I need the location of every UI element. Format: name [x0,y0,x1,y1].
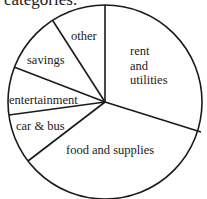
wedge-label-other: other [71,29,98,43]
wedge-label-rent-2: and [130,59,149,73]
wedge-label-rent-3: utilities [130,73,168,87]
wedge-label-entertainment: entertainment [9,93,78,107]
wedge-label-food: food and supplies [66,143,154,157]
wedge-label-rent-1: rent [130,44,150,58]
wedge-label-savings: savings [27,53,65,67]
pie-chart: rent and utilities food and supplies car… [0,0,207,199]
wedge-label-car: car & bus [16,119,65,133]
